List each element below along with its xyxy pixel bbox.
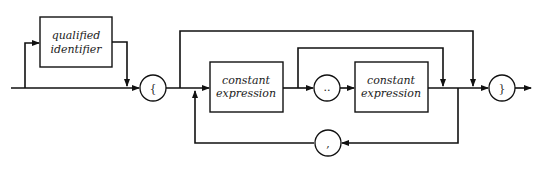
close-brace-symbol: }	[499, 82, 506, 95]
comma-terminal: ,	[315, 130, 341, 156]
close-brace-terminal: }	[489, 75, 515, 101]
syntax-diagram: qualified identifier { constant expressi…	[0, 0, 542, 170]
const-expr-2-label-1: constant	[367, 74, 416, 87]
const-expr-2-label-2: expression	[361, 87, 421, 100]
qualified-identifier-label-1: qualified	[52, 29, 101, 42]
qualified-identifier-box: qualified identifier	[40, 17, 112, 67]
comma-symbol: ,	[326, 137, 330, 150]
const-expr-1-label-2: expression	[216, 87, 276, 100]
open-brace-terminal: {	[140, 75, 166, 101]
const-expr-1-box: constant expression	[210, 62, 283, 112]
const-expr-1-label-1: constant	[222, 74, 271, 87]
open-brace-symbol: {	[150, 82, 157, 95]
range-dots-symbol: ..	[324, 81, 331, 94]
const-expr-2-box: constant expression	[355, 62, 428, 112]
qualified-identifier-label-2: identifier	[50, 43, 102, 56]
range-dots-terminal: ..	[314, 75, 340, 101]
